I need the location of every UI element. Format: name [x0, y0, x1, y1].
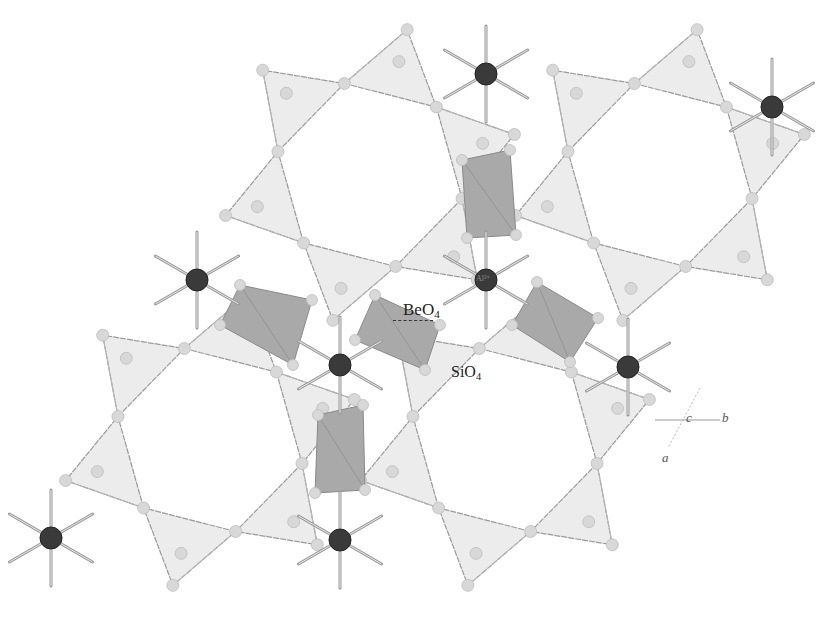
oxygen-atom — [270, 366, 282, 378]
axis-label-b: b — [722, 410, 729, 426]
oxygen-atom — [612, 402, 624, 414]
oxygen-atom — [401, 24, 413, 36]
oxygen-atom — [720, 101, 732, 113]
oxygen-atom — [251, 201, 263, 213]
oxygen-atom — [360, 485, 371, 496]
oxygen-atom — [541, 201, 553, 213]
oxygen-atom — [60, 475, 72, 487]
oxygen-atom — [525, 525, 537, 537]
sio4-tetrahedron — [236, 464, 318, 545]
sio4-tetrahedron — [634, 30, 726, 107]
oxygen-atom — [112, 410, 124, 422]
oxygen-atom — [462, 233, 473, 244]
sio4-tetrahedron — [344, 30, 436, 107]
oxygen-atom — [298, 237, 310, 249]
oxygen-atom — [178, 343, 190, 355]
al-atom — [40, 527, 62, 549]
oxygen-atom — [583, 516, 595, 528]
al-atom — [329, 529, 351, 551]
beo4-label-dash — [393, 320, 433, 321]
oxygen-atom — [691, 24, 703, 36]
oxygen-atom — [507, 320, 518, 331]
oxygen-atom — [386, 466, 398, 478]
sio4-tetrahedron — [144, 508, 236, 585]
oxygen-atom — [591, 458, 603, 470]
oxygen-atom — [505, 145, 516, 156]
oxygen-atom — [138, 502, 150, 514]
oxygen-atom — [532, 277, 543, 288]
oxygen-atom — [508, 128, 520, 140]
sio4-label: SiO4 — [451, 363, 481, 382]
sio4-tetrahedron — [263, 70, 345, 151]
oxygen-atom — [565, 366, 577, 378]
oxygen-atom — [335, 282, 347, 294]
oxygen-atom — [470, 547, 482, 559]
oxygen-atom — [313, 410, 324, 421]
oxygen-atom — [175, 547, 187, 559]
oxygen-atom — [390, 260, 402, 272]
oxygen-atom — [97, 329, 109, 341]
oxygen-atom — [272, 145, 284, 157]
oxygen-atom — [473, 343, 485, 355]
oxygen-atom — [570, 87, 582, 99]
oxygen-atom — [215, 320, 226, 331]
beo4-tetrahedron — [462, 150, 516, 238]
al-atom — [475, 63, 497, 85]
axis-label-c: c — [686, 410, 692, 426]
oxygen-atom — [628, 78, 640, 90]
oxygen-atom — [257, 64, 269, 76]
oxygen-atom — [565, 357, 576, 368]
oxygen-atom — [370, 290, 381, 301]
oxygen-atom — [462, 579, 474, 591]
oxygen-atom — [235, 280, 246, 291]
axis-label-a: a — [662, 450, 669, 466]
oxygen-atom — [435, 320, 446, 331]
oxygen-atom — [643, 393, 655, 405]
al-atom — [761, 96, 783, 118]
oxygen-atom — [477, 137, 489, 149]
oxygen-atom — [547, 64, 559, 76]
oxygen-atom — [511, 230, 522, 241]
oxygen-atom — [310, 488, 321, 499]
oxygen-atom — [350, 335, 361, 346]
oxygen-atom — [798, 128, 810, 140]
oxygen-atom — [430, 101, 442, 113]
al-atom — [617, 356, 639, 378]
sio4-tetrahedron — [103, 335, 185, 416]
oxygen-atom — [280, 87, 292, 99]
oxygen-atom — [230, 525, 242, 537]
oxygen-atom — [327, 314, 339, 326]
oxygen-atom — [296, 458, 308, 470]
oxygen-atom — [358, 400, 369, 411]
oxygen-atom — [338, 78, 350, 90]
oxygen-atom — [220, 210, 232, 222]
oxygen-atom — [420, 365, 431, 376]
oxygen-atom — [457, 155, 468, 166]
oxygen-atom — [606, 539, 618, 551]
oxygen-atom — [433, 502, 445, 514]
oxygen-atom — [625, 282, 637, 294]
sio4-tetrahedron — [439, 508, 531, 585]
oxygen-atom — [588, 237, 600, 249]
oxygen-atom — [307, 295, 318, 306]
oxygen-atom — [120, 352, 132, 364]
oxygen-atom — [683, 56, 695, 68]
sio4-tetrahedron — [553, 70, 635, 151]
sio4-tetrahedron — [531, 464, 613, 545]
oxygen-atom — [288, 360, 299, 371]
oxygen-atom — [593, 313, 604, 324]
oxygen-atom — [407, 410, 419, 422]
oxygen-atom — [738, 251, 750, 263]
oxygen-atom — [746, 193, 758, 205]
beo4-label: BeO4 — [403, 300, 440, 320]
al-atom — [329, 354, 351, 376]
oxygen-atom — [167, 579, 179, 591]
al-label: Al³⁺ — [476, 274, 490, 283]
oxygen-atom — [91, 466, 103, 478]
oxygen-atom — [288, 516, 300, 528]
sio4-tetrahedron — [594, 243, 686, 320]
oxygen-atom — [761, 274, 773, 286]
oxygen-atom — [393, 56, 405, 68]
oxygen-atom — [680, 260, 692, 272]
crystal-structure-diagram: BeO4 SiO4 Al³⁺ c b a — [0, 0, 824, 638]
